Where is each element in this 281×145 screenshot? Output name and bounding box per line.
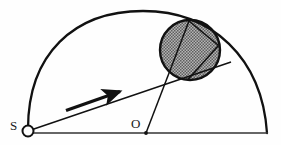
origin-label: O [131, 116, 140, 131]
origin-dot [144, 131, 148, 135]
source-label: S [10, 118, 17, 133]
direction-arrow [66, 92, 120, 111]
semicircular-arc [28, 11, 267, 133]
source-open-circle [23, 126, 34, 137]
geometry-figure: S O [0, 0, 281, 145]
ray-from-source [28, 62, 231, 131]
diagram-canvas: S O [0, 0, 281, 145]
